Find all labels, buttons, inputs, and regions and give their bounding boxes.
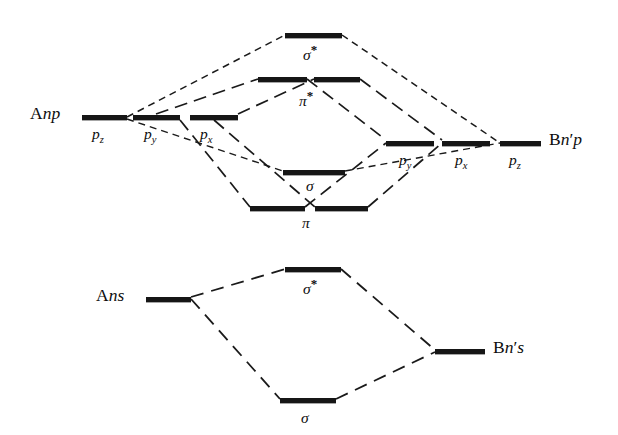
label-a-pz: pz [92, 126, 104, 146]
label-s-sigma-star: σ* [303, 277, 317, 297]
label-a-py: py [144, 126, 156, 146]
level-bar-s-sigma-star [285, 267, 341, 272]
label-b-py: py [399, 152, 411, 172]
level-bar-a-pz [82, 115, 127, 120]
level-bar-b-ns [435, 349, 485, 354]
label-p-sigma-star: σ* [303, 43, 317, 63]
line-sigmastar-to-bpz [342, 35, 500, 143]
label-atom-b-nprime-s: Bn′s [493, 339, 524, 357]
line-apz-to-sigmastar [127, 35, 285, 117]
line-apx-to-pi [214, 120, 315, 207]
label-atom-b-nprime-p: Bn′p [549, 131, 582, 149]
label-s-sigma: σ [301, 410, 309, 426]
level-bar-a-py [133, 115, 180, 120]
label-p-sigma: σ [306, 178, 314, 194]
level-bar-p-pi-star-2 [314, 77, 360, 82]
label-atom-a-ns: Ans [96, 287, 124, 305]
level-bar-b-pz [500, 141, 541, 146]
level-bar-p-pi-1 [250, 206, 305, 211]
line-apy-to-pi [180, 120, 250, 207]
mo-diagram-figure: Anp Bn′p pz py px py px pz σ* π* σ π Ans… [0, 0, 618, 435]
line-pistar-to-bpx [360, 79, 442, 140]
line-apy-to-pistar [156, 79, 258, 114]
line-sigma-to-bns [336, 352, 435, 399]
level-bar-p-sigma [283, 170, 345, 175]
label-a-px: px [200, 126, 212, 146]
level-bar-p-pi-2 [315, 206, 368, 211]
label-p-pi: π [302, 215, 310, 231]
level-bar-b-py [386, 141, 434, 146]
level-bar-a-px [190, 115, 238, 120]
line-sigmastar-to-bns [341, 269, 435, 350]
line-ans-to-sigmastar [191, 269, 285, 297]
level-bar-a-ns [146, 297, 191, 302]
line-ans-to-sigma [191, 299, 280, 399]
label-b-px: px [455, 152, 467, 172]
level-bar-p-pi-star-1 [258, 77, 307, 82]
level-bar-s-sigma [280, 398, 336, 403]
label-p-pi-star: π* [299, 89, 313, 109]
level-bar-b-px [442, 141, 490, 146]
level-bar-p-sigma-star [285, 33, 342, 38]
line-pistar-to-bpy [307, 79, 386, 140]
line-pi-to-bpy [305, 143, 386, 207]
label-b-pz: pz [509, 152, 521, 172]
label-atom-a-np: Anp [30, 105, 60, 123]
